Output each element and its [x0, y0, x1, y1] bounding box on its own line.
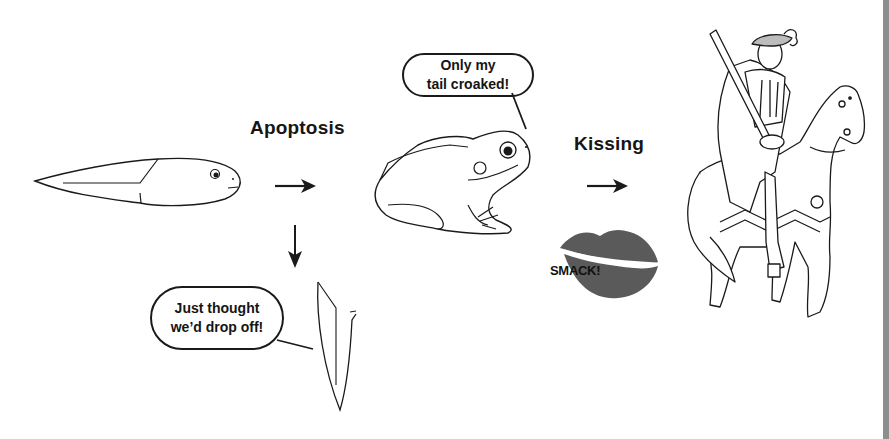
apoptosis-label: Apoptosis: [250, 117, 345, 139]
arrow-right-icon: [587, 178, 629, 194]
tadpole-illustration: [30, 155, 250, 215]
tail-speech-line-1: Just thought: [152, 299, 282, 318]
frog-speech-line-1: Only my: [404, 56, 532, 75]
smack-label: SMACK!: [550, 263, 600, 278]
frog-illustration: [368, 125, 538, 240]
right-edge-bar: [883, 0, 889, 439]
frog-speech-line-2: tail croaked!: [404, 75, 532, 94]
tail-illustration: [312, 280, 362, 415]
frog-speech-bubble: Only my tail croaked!: [402, 53, 534, 97]
prince-knight-illustration: [680, 32, 870, 342]
tail-speech-line-2: we’d drop off!: [152, 318, 282, 337]
tail-speech-pointer: [277, 338, 317, 352]
kissing-label: Kissing: [574, 133, 644, 155]
arrow-right-icon: [275, 178, 317, 194]
arrow-down-icon: [287, 225, 303, 269]
tail-speech-bubble: Just thought we’d drop off!: [150, 286, 284, 350]
